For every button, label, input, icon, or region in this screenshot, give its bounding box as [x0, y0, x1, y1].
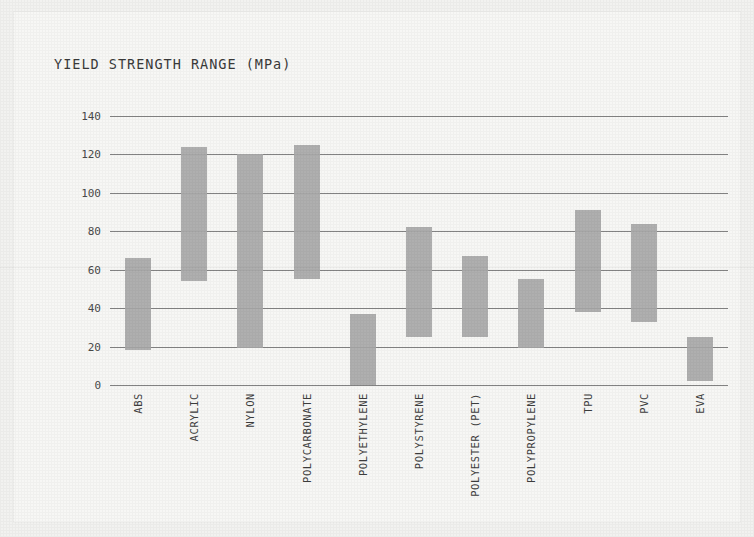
plot-area: 140120100806040200 ABSACRYLICNYLONPOLYCA…: [110, 116, 728, 385]
x-axis-tick-label: ACRYLIC: [188, 393, 200, 441]
bar[interactable]: [687, 337, 713, 381]
bar[interactable]: [125, 258, 151, 350]
x-axis-tick-label: EVA: [694, 393, 706, 414]
gridline: [110, 347, 728, 348]
chart-title: YIELD STRENGTH RANGE (MPa): [54, 56, 291, 72]
x-axis-tick-label: POLYSTYRENE: [413, 393, 425, 469]
x-axis-tick-label: POLYESTER (PET): [469, 393, 481, 497]
y-axis-tick-label: 40: [88, 302, 101, 315]
x-axis-tick-label: ABS: [132, 393, 144, 414]
x-axis-tick-label: POLYCARBONATE: [301, 393, 313, 483]
x-axis-tick-label: POLYPROPYLENE: [525, 393, 537, 483]
x-axis-tick-label: NYLON: [244, 393, 256, 428]
y-axis-tick-label: 100: [81, 186, 101, 199]
gridline: [110, 116, 728, 117]
bar[interactable]: [294, 145, 320, 280]
bar[interactable]: [575, 210, 601, 312]
bar[interactable]: [350, 314, 376, 385]
bar[interactable]: [181, 147, 207, 282]
screenshot-root: YIELD STRENGTH RANGE (MPa) 1401201008060…: [0, 0, 754, 537]
x-axis-tick-label: PVC: [638, 393, 650, 414]
x-axis-tick-label: TPU: [582, 393, 594, 414]
y-axis-tick-label: 0: [94, 379, 101, 392]
bar[interactable]: [406, 227, 432, 337]
bar[interactable]: [518, 279, 544, 348]
y-axis-tick-label: 140: [81, 110, 101, 123]
x-axis-tick-label: POLYETHYLENE: [357, 393, 369, 476]
bar[interactable]: [237, 154, 263, 348]
y-axis-tick-label: 80: [88, 225, 101, 238]
bar[interactable]: [462, 256, 488, 337]
bar[interactable]: [631, 224, 657, 322]
y-axis-tick-label: 20: [88, 340, 101, 353]
image-seam: [0, 267, 754, 268]
y-axis-tick-label: 60: [88, 263, 101, 276]
y-axis-tick-label: 120: [81, 148, 101, 161]
gridline: [110, 385, 728, 386]
